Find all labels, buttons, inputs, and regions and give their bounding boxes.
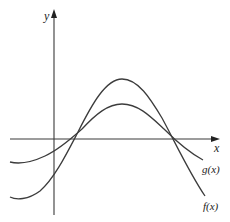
y-axis-arrow-icon: [51, 9, 57, 18]
g-curve-label: g(x): [202, 164, 220, 175]
x-axis-label: x: [214, 142, 219, 154]
f-curve-label: f(x): [203, 201, 218, 212]
function-graph: [0, 0, 230, 222]
curve-g: [10, 104, 203, 163]
y-axis-label: y: [44, 10, 49, 22]
